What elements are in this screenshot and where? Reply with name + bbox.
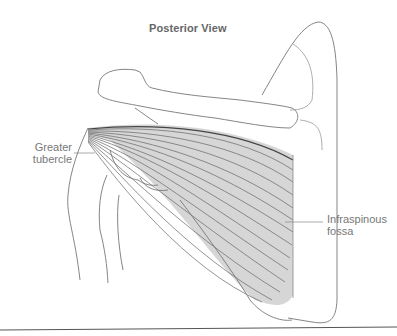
bottom-rule bbox=[0, 327, 397, 330]
acromion-lower-edge bbox=[135, 108, 158, 124]
label-infraspinous-fossa: Infraspinous fossa bbox=[327, 213, 397, 237]
scapula-inner-ridge-2 bbox=[300, 120, 322, 150]
figure-title: Posterior View bbox=[149, 22, 227, 34]
anatomy-figure: Posterior View Greater tubercle Infraspi… bbox=[0, 0, 397, 336]
acromion-outline bbox=[98, 69, 298, 128]
scapula-inner-ridge bbox=[290, 44, 313, 110]
label-greater-tubercle: Greater tubercle bbox=[22, 141, 72, 165]
scapula-illustration bbox=[0, 0, 397, 336]
